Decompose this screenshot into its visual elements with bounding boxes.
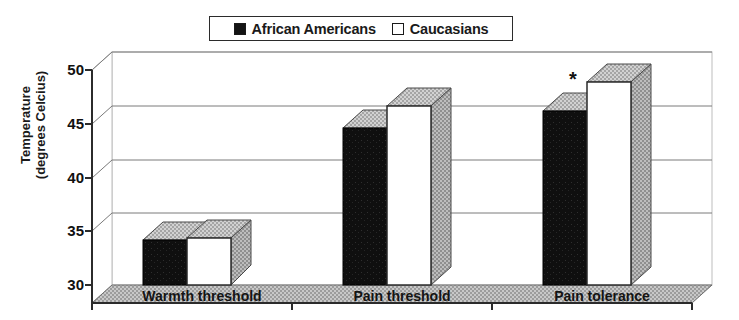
bar-painthreshold-caucasians [387,88,451,285]
x-label-pain-threshold: Pain threshold [322,288,482,304]
chart-figure: African Americans Caucasians Temperature… [0,0,739,320]
x-axis-line [92,303,692,310]
significance-asterisk: * [569,69,577,89]
y-axis-line [85,70,92,303]
x-label-warmth-threshold: Warmth threshold [122,288,282,304]
plot-left-wall [92,52,112,303]
x-label-pain-tolerance: Pain tolerance [522,288,682,304]
bar-paintolerance-caucasians [587,64,651,285]
plot-area [0,0,739,320]
bar-warmth-caucasians [187,220,251,285]
